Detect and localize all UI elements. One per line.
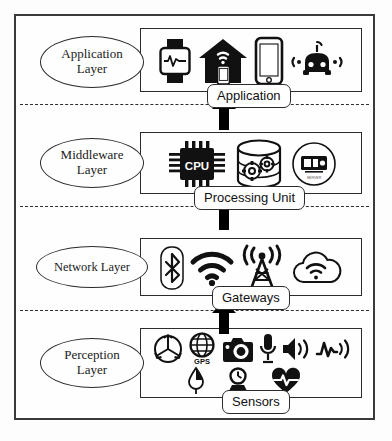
- divider-application-middleware: [20, 104, 369, 105]
- sub-label-gateways: Gateways: [212, 286, 290, 310]
- cell-tower-icon: [238, 245, 286, 291]
- diagram-outer-frame: Application Layer: [14, 14, 375, 420]
- server-module-icon: SERVER: [291, 141, 337, 187]
- layer-label-line-2: Layer: [77, 363, 107, 378]
- humidity-drop-icon: [187, 367, 205, 395]
- microphone-icon: [258, 333, 278, 365]
- layer-perception: Perception Layer: [16, 318, 373, 420]
- layer-label-line-1: Middleware: [61, 148, 124, 163]
- smartphone-icon: [254, 37, 284, 85]
- connected-car-icon: [290, 40, 344, 82]
- layer-label-line-2: Layer: [77, 62, 107, 77]
- cloud-wifi-icon: [291, 251, 343, 285]
- layer-label-network: Network Layer: [36, 246, 148, 288]
- vibration-signal-icon: [316, 336, 350, 362]
- speaker-icon: [281, 335, 313, 363]
- layer-application: Application Layer: [16, 16, 373, 120]
- gyroscope-icon: [153, 334, 183, 364]
- camera-icon: [221, 335, 255, 363]
- database-gears-icon: [234, 140, 284, 188]
- layer-label-line-1: Perception: [64, 348, 120, 363]
- layer-label-perception: Perception Layer: [40, 338, 144, 388]
- sub-label-processing-unit: Processing Unit: [194, 186, 305, 210]
- sub-label-sensors: Sensors: [222, 390, 290, 414]
- wifi-icon: [190, 250, 234, 286]
- cpu-chip-caption: CPU: [185, 160, 209, 172]
- divider-network-perception: [20, 310, 369, 311]
- layer-label-application: Application Layer: [40, 36, 144, 88]
- smartwatch-icon: [158, 39, 192, 83]
- layer-label-middleware: Middleware Layer: [40, 138, 144, 188]
- layer-label-line-1: Network Layer: [54, 260, 130, 274]
- cpu-chip-icon: CPU: [165, 141, 227, 187]
- svg-text:SERVER: SERVER: [307, 176, 322, 180]
- layer-label-line-1: Application: [61, 47, 122, 62]
- layer-label-line-2: Layer: [77, 163, 107, 178]
- sub-label-application: Application: [207, 84, 291, 108]
- iot-architecture-diagram: Application Layer: [0, 0, 392, 441]
- bluetooth-icon: [159, 246, 185, 290]
- gps-globe-icon: GPS: [186, 332, 218, 366]
- gps-caption: GPS: [194, 357, 210, 366]
- smart-home-icon: [198, 38, 248, 84]
- layer-network: Network Layer: [16, 224, 373, 328]
- layer-middleware: Middleware Layer: [16, 120, 373, 224]
- application-icon-box: [140, 28, 362, 92]
- perception-icon-box: GPS: [140, 328, 362, 398]
- middleware-icon-box: CPU: [140, 132, 362, 194]
